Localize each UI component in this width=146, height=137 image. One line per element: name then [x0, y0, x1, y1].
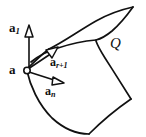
upper-sheet-left-edge	[27, 49, 49, 69]
label-vector-an-subscript: n	[51, 90, 55, 99]
vector-an-shaft	[29, 72, 54, 80]
label-surface-q: Q	[110, 36, 121, 51]
label-vector-a1-base: a	[9, 20, 16, 35]
label-vector-an: an	[45, 85, 55, 97]
label-vector-ar1: ar+1	[50, 56, 67, 68]
label-vector-ar1-subscript: r+1	[56, 61, 67, 70]
geometry-figure: a1 a ar+1 an Q	[0, 0, 146, 137]
vector-an-arrowhead	[52, 77, 64, 85]
label-vector-a1-subscript: 1	[16, 26, 20, 36]
point-a-marker	[24, 67, 30, 73]
lower-sheet-bottom-edge	[89, 99, 131, 134]
vector-a1-arrowhead	[25, 25, 33, 37]
figure-canvas	[0, 0, 146, 137]
label-vector-a1: a1	[9, 21, 20, 34]
label-point-a: a	[9, 63, 16, 76]
